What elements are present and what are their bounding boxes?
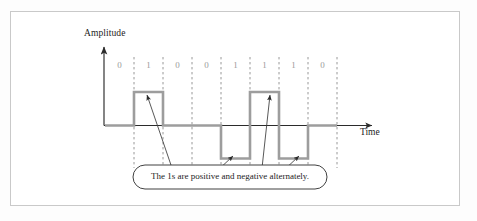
bit-label: 1 — [221, 60, 250, 70]
bit-label: 0 — [308, 60, 337, 70]
bit-label: 1 — [134, 60, 163, 70]
figure-root: Amplitude Time 0 1 0 0 1 1 1 0 The 1s ar… — [0, 0, 477, 221]
y-axis-label: Amplitude — [84, 28, 126, 38]
signal-plot — [0, 0, 477, 221]
bit-label: 0 — [163, 60, 192, 70]
bit-label: 0 — [105, 60, 134, 70]
figure-stage: Amplitude Time 0 1 0 0 1 1 1 0 The 1s ar… — [0, 0, 477, 221]
callout-text: The 1s are positive and negative alterna… — [137, 169, 323, 183]
x-axis-label: Time — [360, 127, 380, 137]
bit-label: 0 — [192, 60, 221, 70]
bit-label: 1 — [250, 60, 279, 70]
bit-boundary-gridlines — [134, 57, 337, 168]
bit-label: 1 — [279, 60, 308, 70]
